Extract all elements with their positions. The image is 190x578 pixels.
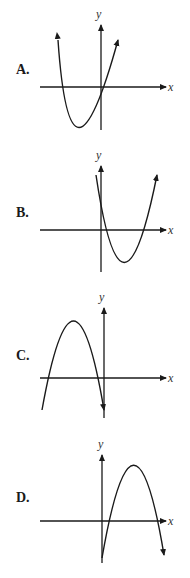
parabola-curve (102, 465, 164, 558)
graph-option-a[interactable]: A. x y (16, 7, 174, 130)
parabola-curve (96, 175, 157, 263)
x-axis-label: x (167, 514, 174, 528)
parabola-curve (58, 40, 118, 128)
graph-option-b[interactable]: B. x y (16, 148, 174, 272)
y-axis-label: y (95, 7, 102, 21)
y-axis-label: y (97, 437, 104, 451)
option-label-c: C. (16, 348, 30, 363)
answer-choices-graphs: A. x y B. x y C. x y D. x y (0, 0, 190, 578)
y-axis-label: y (95, 148, 102, 162)
graph-option-d[interactable]: D. x y (16, 437, 174, 563)
parabola-curve (42, 321, 104, 410)
option-label-a: A. (16, 62, 30, 77)
y-axis-label: y (98, 290, 105, 304)
x-axis-label: x (167, 371, 174, 385)
x-axis-label: x (167, 80, 174, 94)
option-label-d: D. (16, 490, 30, 505)
option-label-b: B. (16, 205, 29, 220)
graph-option-c[interactable]: C. x y (16, 290, 174, 418)
x-axis-label: x (167, 223, 174, 237)
